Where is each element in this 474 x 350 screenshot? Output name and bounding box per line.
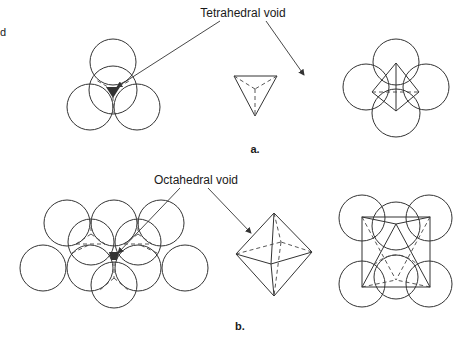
callout-arrow-right (266, 21, 304, 75)
octahedron-shape (236, 213, 312, 296)
callout-arrow-left (117, 21, 220, 87)
octahedral-void-label: Octahedral void (154, 173, 238, 187)
panel-b: Octahedral void (20, 173, 452, 332)
tetrahedral-sphere-cluster (67, 39, 160, 130)
octahedral-sphere-layers (20, 200, 208, 308)
corner-fragment-text: d (0, 26, 6, 38)
tetrahedron-shape (234, 76, 277, 116)
tetrahedron-in-spheres (343, 39, 449, 137)
octahedron-in-spheres (339, 195, 452, 307)
callout-arrow-left (118, 188, 180, 253)
callout-arrow-right (208, 188, 251, 233)
crystal-voids-diagram: d Tetrahedral void (0, 0, 474, 350)
panel-a: Tetrahedral void (67, 6, 449, 155)
panel-b-label: b. (235, 320, 245, 332)
panel-a-label: a. (250, 143, 259, 155)
tetrahedral-void-label: Tetrahedral void (200, 6, 285, 20)
octahedral-void-marker (109, 252, 119, 260)
